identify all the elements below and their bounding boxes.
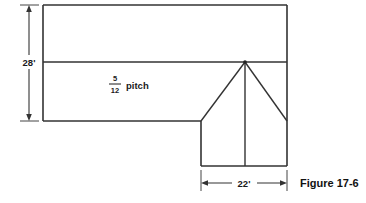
arrowhead-left-icon [201,180,208,186]
arrowhead-up-icon [26,5,32,12]
pitch-denominator: 12 [111,86,119,95]
width-dimension-label: 22' [238,178,251,189]
hip-line-right [245,62,287,121]
figure-page: 28' 22' 5 12 pitch Figure 17-6 [0,0,366,203]
pitch-numerator: 5 [113,74,117,83]
arrowhead-right-icon [280,180,287,186]
height-dimension-label: 28' [23,57,36,68]
arrowhead-down-icon [26,114,32,121]
roof-apex-node [243,60,247,64]
pitch-word-label: pitch [126,80,149,91]
figure-caption: Figure 17-6 [300,177,359,189]
roof-plan-diagram: 28' 22' 5 12 pitch Figure 17-6 [0,0,366,203]
hip-line-left [201,62,245,121]
